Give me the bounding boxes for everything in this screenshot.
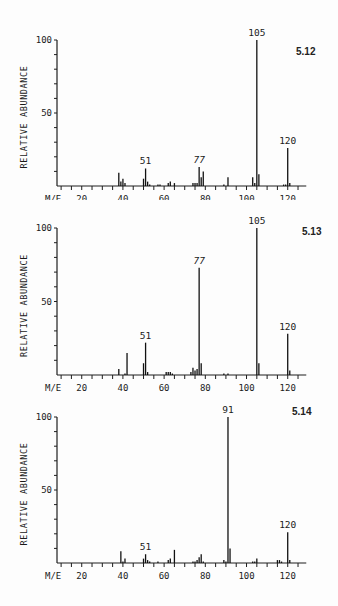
- spectrum-plot: 50100RELATIVE ABUNDANCEM/E20406080100120…: [0, 195, 338, 400]
- spectrum-5-12: 50100RELATIVE ABUNDANCEM/E20406080100120…: [0, 0, 338, 200]
- x-tick-label: 120: [280, 383, 296, 393]
- y-tick-label: 50: [41, 485, 52, 495]
- peak-annotation: 120: [279, 321, 296, 332]
- figure-label: 5.14: [292, 406, 311, 417]
- x-tick-label: 80: [200, 383, 211, 393]
- peak-annotation: 120: [279, 135, 296, 146]
- peak-annotation: 105: [248, 27, 265, 38]
- x-tick-label: 80: [200, 571, 211, 581]
- spectrum-plot: 50100RELATIVE ABUNDANCEM/E20406080100120…: [0, 0, 338, 200]
- x-tick-label: 120: [280, 571, 296, 581]
- spectrum-5-13: 50100RELATIVE ABUNDANCEM/E20406080100120…: [0, 195, 338, 400]
- y-axis-label: RELATIVE ABUNDANCE: [19, 443, 29, 546]
- y-tick-label: 100: [36, 223, 52, 233]
- peak-annotation: 120: [279, 519, 296, 530]
- peak-annotation: 91: [222, 404, 234, 415]
- peak-annotation: 77: [193, 255, 205, 266]
- y-tick-label: 100: [36, 35, 52, 45]
- x-tick-label: 60: [159, 383, 170, 393]
- peak-annotation: 51: [140, 541, 152, 552]
- x-tick-label: 60: [159, 571, 170, 581]
- x-tick-label: 40: [117, 571, 128, 581]
- y-tick-label: 100: [36, 412, 52, 422]
- y-tick-label: 50: [41, 297, 52, 307]
- x-axis-label: M/E: [45, 571, 61, 581]
- peak-annotation: 51: [140, 330, 152, 341]
- spectrum-5-14: 50100RELATIVE ABUNDANCEM/E20406080100120…: [0, 400, 338, 606]
- peak-annotation: 105: [248, 215, 265, 226]
- x-tick-label: 20: [76, 383, 87, 393]
- figure-label: 5.13: [302, 226, 321, 237]
- y-axis-label: RELATIVE ABUNDANCE: [19, 254, 29, 357]
- x-tick-label: 100: [238, 383, 254, 393]
- x-tick-label: 40: [117, 383, 128, 393]
- x-axis-label: M/E: [45, 383, 61, 393]
- peak-annotation: 51: [140, 155, 152, 166]
- peak-annotation: 77: [193, 154, 205, 165]
- y-axis-label: RELATIVE ABUNDANCE: [19, 66, 29, 169]
- x-tick-label: 100: [238, 571, 254, 581]
- figure-label: 5.12: [296, 46, 315, 57]
- spectrum-plot: 50100RELATIVE ABUNDANCEM/E20406080100120…: [0, 400, 338, 606]
- y-tick-label: 50: [41, 108, 52, 118]
- x-tick-label: 20: [76, 571, 87, 581]
